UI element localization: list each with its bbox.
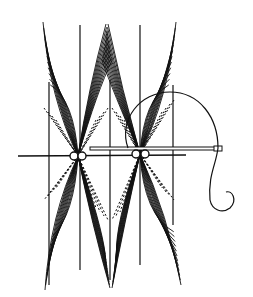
diagram-canvas: [0, 0, 253, 297]
horizontal-axis-line: [18, 155, 186, 156]
node-circle: [70, 152, 78, 160]
fiber-diagram: [0, 0, 253, 297]
needle: [90, 146, 222, 151]
node-circle: [141, 150, 149, 158]
node-circle: [132, 150, 140, 158]
node-circle: [78, 152, 86, 160]
